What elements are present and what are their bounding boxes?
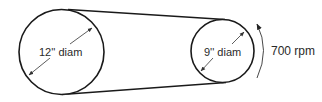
rotation-arrow-icon [257, 24, 264, 78]
rotation-speed-label: 700 rpm [270, 45, 316, 57]
belt-top-segment [68, 10, 225, 20]
small-pulley-label: 9'' diam [203, 46, 242, 58]
large-pulley-label: 12'' diam [38, 46, 83, 58]
